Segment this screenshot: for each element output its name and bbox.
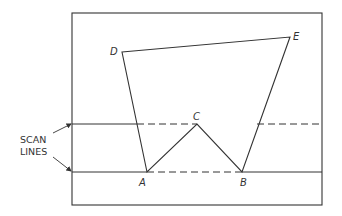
leader-arrow-lower [53, 157, 71, 171]
scan-line-diagram: SCAN LINES D E C A B [0, 0, 342, 216]
scan-lines-label-line1: SCAN [20, 134, 46, 145]
vertex-label-e: E [293, 31, 300, 42]
vertex-label-c: C [193, 111, 200, 122]
vertex-label-d: D [110, 46, 118, 57]
leader-arrow-upper [53, 124, 71, 133]
vertex-label-b: B [240, 177, 247, 188]
viewport-frame [72, 13, 322, 205]
scan-lines-label-line2: LINES [20, 146, 47, 157]
polygon-shape [122, 37, 290, 172]
vertex-label-a: A [138, 177, 146, 188]
